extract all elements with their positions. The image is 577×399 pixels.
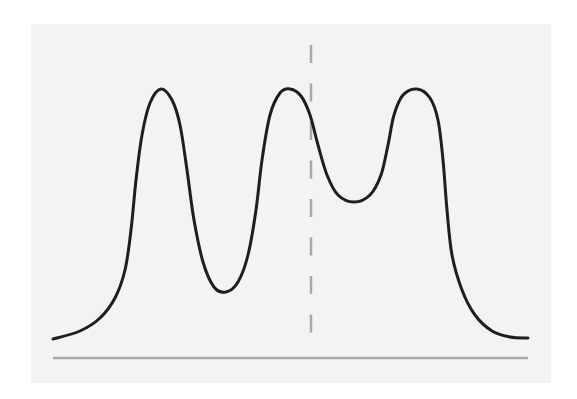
density-curve bbox=[53, 89, 528, 339]
density-plot bbox=[0, 0, 577, 399]
